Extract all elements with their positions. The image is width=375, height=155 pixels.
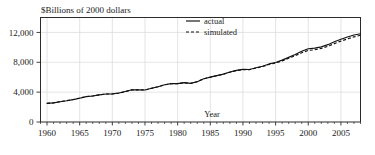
x-tick-label: 2000 [299,128,318,138]
x-tick-label: 1965 [71,128,90,138]
x-tick-label: 1980 [169,128,188,138]
plot-frame [41,18,361,123]
vertical-gridlines [47,18,341,123]
x-tick-label: 1975 [136,128,155,138]
chart-legend: actual simulated [186,16,238,37]
legend-label-simulated: simulated [204,27,238,37]
y-axis-tickmarks [37,32,41,122]
y-tick-label: 12,000 [9,28,34,38]
y-tick-label: 0 [29,117,34,127]
x-tick-label: 1990 [234,128,253,138]
y-axis-tick-labels: 04,0008,00012,000 [9,28,34,128]
horizontal-gridlines [41,32,361,92]
series-line-actual [47,34,360,104]
y-tick-label: 8,000 [13,57,34,67]
x-axis-tick-labels: 1960196519701975198019851990199520002005 [38,128,350,138]
chart-canvas: $Billions of 2000 dollars 04,0008,00012,… [0,0,375,155]
economic-output-line-chart: $Billions of 2000 dollars 04,0008,00012,… [0,0,375,155]
x-tick-label: 1960 [38,128,57,138]
chart-title: $Billions of 2000 dollars [41,5,131,15]
x-axis-label: Year [204,109,220,119]
x-tick-label: 1985 [201,128,220,138]
x-axis-tickmarks [47,122,341,126]
series-line-simulated [47,35,360,103]
x-tick-label: 2005 [332,128,351,138]
x-tick-label: 1995 [267,128,286,138]
x-tick-label: 1970 [103,128,122,138]
y-tick-label: 4,000 [13,87,34,97]
legend-label-actual: actual [204,16,225,26]
